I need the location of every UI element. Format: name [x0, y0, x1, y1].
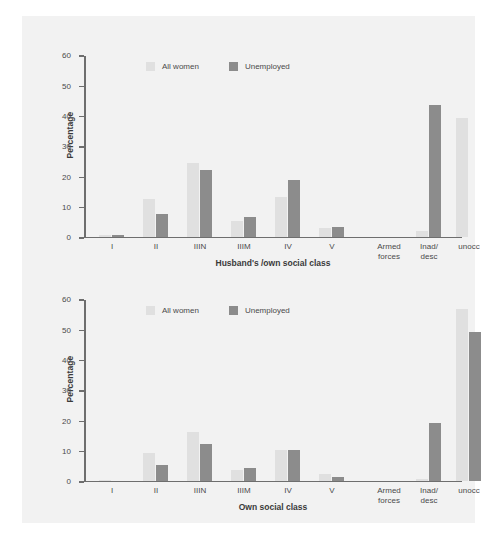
bar-group: II [143, 299, 169, 481]
x-axis-category-label: V [329, 242, 334, 252]
bar-all-women [416, 231, 428, 236]
x-axis-category-label: II [154, 242, 158, 252]
bar-group: II [143, 55, 169, 237]
bar-group: IIIM [231, 299, 257, 481]
x-axis-title-top: Husband's /own social class [84, 258, 462, 268]
plot-area-bottom: 0102030405060IIIIIINIIIMIVVArmedforcesIn… [84, 300, 462, 482]
x-axis-title-bottom: Own social class [84, 502, 462, 512]
y-axis-tick-label: 20 [62, 416, 71, 425]
bar-group: Inad/desc [416, 299, 442, 481]
y-axis-tick: 30 [79, 390, 84, 392]
bar-unemployed [200, 170, 212, 236]
bar-unemployed [156, 465, 168, 480]
bar-all-women [456, 118, 468, 236]
y-axis-tick-label: 60 [62, 295, 71, 304]
y-axis-tick-label: 0 [67, 233, 71, 242]
x-axis-category-label: V [329, 486, 334, 496]
bar-all-women [187, 163, 199, 237]
x-axis-category-label: I [111, 242, 113, 252]
bar-group: I [99, 55, 125, 237]
y-axis-tick: 0 [79, 237, 84, 239]
y-axis-tick-label: 30 [62, 142, 71, 151]
x-axis-category-label: unocc [458, 486, 479, 496]
x-axis-category-label: unocc [458, 242, 479, 252]
x-axis-line-bottom [84, 481, 462, 483]
bar-group: IIIM [231, 55, 257, 237]
chart-own-social-class: Percentage All women Unemployed 01020304… [22, 278, 475, 518]
y-axis-tick: 10 [79, 207, 84, 209]
y-axis-tick: 50 [79, 86, 84, 88]
bar-all-women [143, 453, 155, 480]
bar-group: Armedforces [376, 299, 402, 481]
figure-panel: Percentage All women Unemployed 01020304… [22, 16, 475, 523]
x-axis-category-label: IIIM [237, 486, 250, 496]
bar-group: IV [275, 55, 301, 237]
bar-all-women [319, 474, 331, 481]
bar-all-women [456, 309, 468, 480]
y-axis-tick: 40 [79, 116, 84, 118]
y-axis-tick-label: 0 [67, 477, 71, 486]
bar-unemployed [332, 477, 344, 480]
bar-unemployed [244, 468, 256, 481]
bar-all-women [275, 450, 287, 480]
bar-group: V [319, 55, 345, 237]
bar-all-women [143, 199, 155, 237]
bar-all-women [99, 235, 111, 236]
y-axis-tick: 20 [79, 177, 84, 179]
y-axis-tick: 10 [79, 451, 84, 453]
y-axis-tick-label: 40 [62, 355, 71, 364]
y-axis-tick-label: 50 [62, 81, 71, 90]
bar-unemployed [288, 450, 300, 481]
bar-group: unocc [456, 55, 482, 237]
y-axis-tick: 20 [79, 421, 84, 423]
y-axis-tick-label: 30 [62, 386, 71, 395]
bar-unemployed [156, 214, 168, 237]
bar-all-women [231, 470, 243, 481]
bar-all-women [187, 432, 199, 481]
bar-group: Armedforces [376, 55, 402, 237]
y-axis-tick: 40 [79, 360, 84, 362]
y-axis-tick: 60 [79, 55, 84, 57]
y-axis-tick-label: 40 [62, 111, 71, 120]
y-axis-tick-label: 10 [62, 202, 71, 211]
bar-all-women [275, 197, 287, 236]
x-axis-category-label: II [154, 486, 158, 496]
bar-group: IIIN [187, 299, 213, 481]
bar-group: IIIN [187, 55, 213, 237]
bar-group: IV [275, 299, 301, 481]
y-axis-line-top [84, 56, 86, 238]
bar-all-women [99, 480, 111, 481]
bar-unemployed [244, 217, 256, 236]
bar-all-women [319, 228, 331, 236]
y-axis-tick-label: 50 [62, 325, 71, 334]
bar-unemployed [112, 235, 124, 236]
y-axis-tick-label: 10 [62, 446, 71, 455]
x-axis-category-label: IIIM [237, 242, 250, 252]
bar-unemployed [200, 444, 212, 480]
x-axis-line-top [84, 237, 462, 239]
x-axis-category-label: IIIN [194, 486, 206, 496]
bar-all-women [231, 221, 243, 236]
bar-all-women [416, 479, 428, 480]
bar-unemployed [469, 332, 481, 481]
bar-group: unocc [456, 299, 482, 481]
bar-unemployed [429, 105, 441, 237]
y-axis-tick-label: 20 [62, 172, 71, 181]
bar-group: Inad/desc [416, 55, 442, 237]
x-axis-category-label: IIIN [194, 242, 206, 252]
bar-group: V [319, 299, 345, 481]
plot-area-top: 0102030405060IIIIIINIIIMIVVArmedforcesIn… [84, 56, 462, 238]
y-axis-tick: 0 [79, 481, 84, 483]
x-axis-category-label: IV [284, 242, 292, 252]
y-axis-tick: 50 [79, 330, 84, 332]
y-axis-tick-label: 60 [62, 51, 71, 60]
chart-husbands-own-social-class: Percentage All women Unemployed 01020304… [22, 34, 475, 274]
bar-group: I [99, 299, 125, 481]
y-axis-tick: 30 [79, 146, 84, 148]
x-axis-category-label: IV [284, 486, 292, 496]
bar-unemployed [288, 180, 300, 236]
x-axis-category-label: I [111, 486, 113, 496]
bar-unemployed [332, 227, 344, 236]
y-axis-tick: 60 [79, 299, 84, 301]
y-axis-line-bottom [84, 300, 86, 482]
